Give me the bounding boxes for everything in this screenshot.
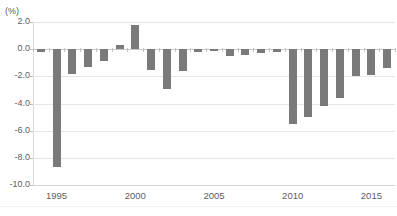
x-axis-tick bbox=[127, 48, 128, 52]
x-axis-tick bbox=[253, 48, 254, 52]
gridline bbox=[33, 158, 395, 159]
x-axis-tick bbox=[238, 48, 239, 52]
y-axis-tick-label: -4.0 bbox=[2, 99, 30, 108]
x-axis-tick bbox=[222, 48, 223, 52]
chart-title-cutoff bbox=[0, 0, 397, 9]
x-axis-tick-label: 2015 bbox=[351, 190, 391, 201]
x-axis-tick bbox=[175, 48, 176, 52]
x-axis-tick bbox=[316, 48, 317, 52]
bar bbox=[367, 49, 375, 75]
gridline bbox=[33, 104, 395, 105]
x-axis-tick bbox=[190, 48, 191, 52]
x-axis-tick bbox=[49, 48, 50, 52]
x-axis-tick bbox=[332, 48, 333, 52]
y-axis-tick bbox=[28, 76, 33, 77]
gridline bbox=[33, 131, 395, 132]
x-axis-tick bbox=[395, 48, 396, 52]
y-axis-tick-label: 0.0 bbox=[2, 44, 30, 53]
y-axis-tick-label: 2.0 bbox=[2, 17, 30, 26]
bar bbox=[336, 49, 344, 98]
x-axis-tick bbox=[112, 48, 113, 52]
x-axis-tick bbox=[301, 48, 302, 52]
y-axis-tick-label: -6.0 bbox=[2, 126, 30, 135]
bar bbox=[304, 49, 312, 117]
x-axis-tick bbox=[364, 48, 365, 52]
x-axis-ticks bbox=[33, 48, 395, 53]
bar-chart: (%) 2.00.0-2.0-4.0-6.0-8.0-10.0 19952000… bbox=[0, 0, 397, 216]
x-axis-tick bbox=[269, 48, 270, 52]
bar bbox=[53, 49, 61, 167]
gridline bbox=[33, 22, 395, 23]
bar bbox=[289, 49, 297, 124]
x-axis-tick bbox=[285, 48, 286, 52]
x-axis-labels: 19952000200520102015 bbox=[0, 190, 397, 204]
x-axis-tick bbox=[64, 48, 65, 52]
y-axis-tick bbox=[28, 158, 33, 159]
x-axis-tick-label: 1995 bbox=[37, 190, 77, 201]
x-axis-tick bbox=[379, 48, 380, 52]
x-axis-tick bbox=[96, 48, 97, 52]
y-axis-tick bbox=[28, 49, 33, 50]
bar bbox=[352, 49, 360, 76]
y-axis-tick-label: -10.0 bbox=[2, 180, 30, 189]
bar bbox=[163, 49, 171, 88]
bar bbox=[320, 49, 328, 106]
x-axis-tick-label: 2000 bbox=[115, 190, 155, 201]
y-axis-tick bbox=[28, 185, 33, 186]
x-axis-tick bbox=[33, 48, 34, 52]
y-axis-tick bbox=[28, 22, 33, 23]
y-axis-labels: 2.00.0-2.0-4.0-6.0-8.0-10.0 bbox=[0, 0, 30, 216]
x-axis-tick-label: 2010 bbox=[273, 190, 313, 201]
x-axis-tick bbox=[80, 48, 81, 52]
y-axis-tick bbox=[28, 131, 33, 132]
bar bbox=[131, 25, 139, 49]
x-axis-tick bbox=[143, 48, 144, 52]
x-axis-tick bbox=[348, 48, 349, 52]
y-axis-tick bbox=[28, 104, 33, 105]
x-axis-tick-label: 2005 bbox=[194, 190, 234, 201]
y-axis-tick-label: -8.0 bbox=[2, 153, 30, 162]
bottom-divider bbox=[0, 206, 397, 207]
x-axis-tick bbox=[206, 48, 207, 52]
gridline bbox=[33, 185, 395, 186]
y-axis-tick-label: -2.0 bbox=[2, 71, 30, 80]
plot-area bbox=[33, 22, 395, 185]
x-axis-tick bbox=[159, 48, 160, 52]
